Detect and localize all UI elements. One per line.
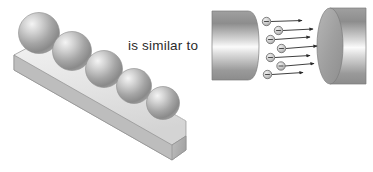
physics-analogy-figure	[0, 0, 373, 172]
electron	[262, 17, 270, 25]
sphere	[117, 69, 152, 104]
electron	[277, 62, 285, 70]
left-cylinder	[212, 11, 259, 80]
right-cylinder-face	[317, 8, 343, 84]
electron	[263, 70, 271, 78]
electron	[266, 53, 274, 61]
electron	[277, 44, 285, 52]
electron	[266, 35, 274, 43]
analogy-connector-text: is similar to	[128, 38, 218, 53]
sphere	[53, 32, 92, 71]
sphere	[147, 87, 180, 120]
electron	[274, 26, 282, 34]
